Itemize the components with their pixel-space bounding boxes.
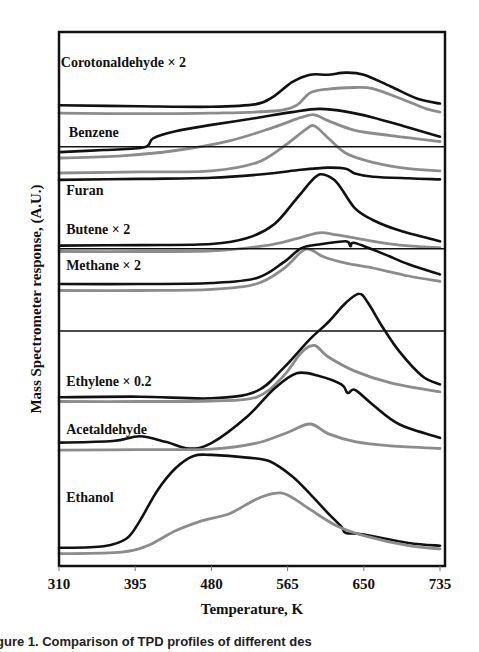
trace-layer [59, 73, 440, 554]
trace-label: Butene × 2 [66, 222, 130, 237]
trace-corotonaldehyde-2-grey [59, 87, 440, 113]
trace-label: Furan [66, 183, 104, 198]
x-axis-title: Temperature, K [201, 601, 304, 617]
x-tick-label: 735 [429, 576, 452, 592]
y-axis-title: Mass Spectrometer response, (A.U.) [28, 184, 45, 413]
trace-benzene-furan-separator-black [59, 168, 440, 180]
trace-label: Ethanol [66, 490, 114, 505]
annotation-layer: Corotonaldehyde × 2BenzeneFuranButene × … [61, 55, 186, 505]
trace-label: Corotonaldehyde × 2 [61, 55, 186, 70]
x-tick-label: 565 [276, 576, 299, 592]
figure-caption: gure 1. Comparison of TPD profiles of di… [0, 634, 312, 649]
x-axis: 310395480565650735 [48, 566, 452, 592]
trace-label: Benzene [69, 125, 119, 140]
trace-ethanol-black [59, 455, 440, 548]
x-tick-label: 395 [124, 576, 147, 592]
x-tick-label: 480 [200, 576, 223, 592]
x-tick-label: 650 [353, 576, 376, 592]
x-tick-label: 310 [48, 576, 71, 592]
trace-corotonaldehyde-2-black [59, 73, 440, 107]
trace-label: Methane × 2 [66, 258, 141, 273]
tpd-chart: 310395480565650735 Corotonaldehyde × 2Be… [0, 0, 479, 652]
trace-label: Acetaldehyde [66, 422, 147, 437]
trace-label: Ethylene × 0.2 [66, 374, 151, 389]
